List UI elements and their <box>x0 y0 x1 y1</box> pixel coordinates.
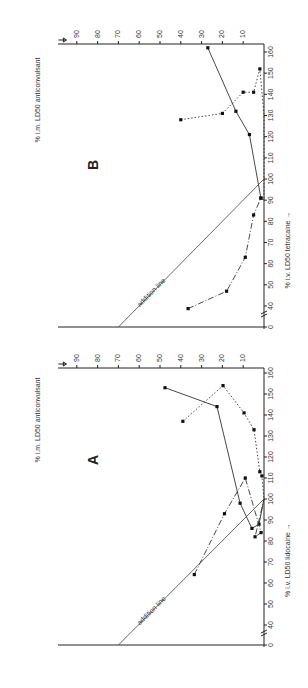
arrow-icon <box>58 38 66 42</box>
y-axis-label: % i.m. LD50 anticonvulsant <box>34 58 41 143</box>
y-tick-label: 20 <box>218 30 225 38</box>
y-tick-label: 90 <box>73 30 80 38</box>
x-tick-label: 130 <box>267 430 274 442</box>
y-tick-label: 10 <box>239 30 246 38</box>
data-point <box>258 67 261 70</box>
y-tick-label: 30 <box>198 354 205 362</box>
y-tick-label: 40 <box>177 354 184 362</box>
x-tick-label: 0 <box>267 643 274 647</box>
series-dash-dot <box>194 478 264 575</box>
x-tick-label: 80 <box>267 537 274 545</box>
y-tick-label: 50 <box>156 30 163 38</box>
data-point <box>221 384 224 387</box>
x-tick-label: 40 <box>267 621 274 629</box>
isobologram-figure: 0405060708090100110120130140150160102030… <box>0 0 308 688</box>
data-point <box>259 196 262 199</box>
y-tick-label: 70 <box>114 354 121 362</box>
data-point <box>225 290 228 293</box>
data-point <box>242 411 245 414</box>
panel-label: B <box>85 160 101 170</box>
x-tick-label: 160 <box>267 367 274 379</box>
y-tick-label: 10 <box>239 354 246 362</box>
data-point <box>238 502 241 505</box>
series-dotted <box>183 386 264 499</box>
data-point <box>234 110 237 113</box>
data-point <box>206 46 209 49</box>
panel-A: 0405060708090100110120130140150160102030… <box>34 354 291 647</box>
x-tick-label: 50 <box>267 600 274 608</box>
y-axis-label: % i.m. LD50 anticonvulsant <box>34 378 41 463</box>
x-axis-label: % i.v. LD50 lidocaine → <box>284 523 291 597</box>
x-tick-label: 90 <box>267 516 274 524</box>
x-tick-label: 130 <box>267 110 274 122</box>
data-point <box>181 420 184 423</box>
data-point <box>259 531 262 534</box>
panel-label: A <box>85 455 101 465</box>
x-tick-label: 140 <box>267 409 274 421</box>
y-tick-label: 20 <box>218 354 225 362</box>
x-tick-label: 80 <box>267 217 274 225</box>
y-tick-label: 60 <box>135 354 142 362</box>
data-point <box>193 573 196 576</box>
data-point <box>252 428 255 431</box>
data-point <box>258 470 261 473</box>
x-tick-label: 40 <box>267 302 274 310</box>
x-tick-label: 90 <box>267 196 274 204</box>
data-point <box>242 91 245 94</box>
data-point <box>253 535 256 538</box>
x-tick-label: 120 <box>267 131 274 143</box>
data-point <box>186 307 189 310</box>
x-tick-label: 160 <box>267 46 274 58</box>
addition-line-label: addition line <box>136 595 167 626</box>
data-point <box>250 527 253 530</box>
y-tick-label: 90 <box>73 354 80 362</box>
data-point <box>248 133 251 136</box>
x-tick-label: 140 <box>267 88 274 100</box>
series-solid <box>208 48 264 200</box>
addition-line-label: addition line <box>136 276 167 308</box>
x-tick-label: 60 <box>267 260 274 268</box>
data-point <box>244 476 247 479</box>
data-point <box>252 213 255 216</box>
x-tick-label: 150 <box>267 388 274 400</box>
data-point <box>221 112 224 115</box>
x-tick-label: 70 <box>267 239 274 247</box>
y-tick-label: 80 <box>94 354 101 362</box>
y-tick-label: 30 <box>198 30 205 38</box>
x-tick-label: 110 <box>267 152 274 163</box>
data-point <box>179 118 182 121</box>
y-tick-label: 50 <box>156 354 163 362</box>
x-tick-label: 110 <box>267 472 274 483</box>
x-tick-label: 60 <box>267 579 274 587</box>
data-point <box>244 256 247 259</box>
data-point <box>260 474 263 477</box>
x-axis-label: % i.v. LD50 tetracaine → <box>284 212 291 289</box>
series-solid <box>165 388 264 529</box>
data-point <box>215 405 218 408</box>
y-tick-label: 70 <box>114 30 121 38</box>
y-tick-label: 60 <box>135 30 142 38</box>
x-tick-label: 50 <box>267 281 274 289</box>
y-tick-label: 40 <box>177 30 184 38</box>
panel-B: 0405060708090100110120130140150160102030… <box>34 30 291 329</box>
x-tick-label: 120 <box>267 451 274 463</box>
x-tick-label: 70 <box>267 558 274 566</box>
series-dotted <box>181 69 264 200</box>
series-dash-dot <box>188 198 261 309</box>
x-tick-label: 100 <box>267 493 274 505</box>
data-point <box>163 386 166 389</box>
x-tick-label: 150 <box>267 67 274 79</box>
data-point <box>223 512 226 515</box>
arrow-icon <box>58 362 66 366</box>
data-point <box>252 91 255 94</box>
x-tick-label: 100 <box>267 173 274 185</box>
y-tick-label: 80 <box>94 30 101 38</box>
x-tick-label: 0 <box>267 325 274 329</box>
